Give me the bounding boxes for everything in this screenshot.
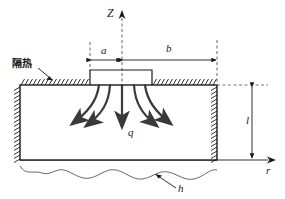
leader-line-h bbox=[155, 174, 176, 188]
dimension-a-label: a bbox=[101, 44, 107, 56]
heat-conduction-figure: Z r a b l q h 隔热 bbox=[0, 0, 285, 199]
leader-insulation-arrowhead bbox=[46, 76, 53, 80]
insulation-label: 隔热 bbox=[12, 55, 32, 70]
insulation-hatch-top-left bbox=[21, 79, 89, 85]
axis-r-label: r bbox=[266, 164, 270, 176]
convection-coefficient-label: h bbox=[178, 182, 184, 194]
dimension-extension-lines bbox=[90, 40, 217, 84]
axis-z-label: Z bbox=[107, 6, 114, 21]
convection-wavy-boundary bbox=[20, 166, 217, 179]
leader-line-insulation bbox=[38, 68, 53, 81]
slab-body bbox=[20, 85, 217, 160]
dimension-l bbox=[217, 85, 268, 158]
r-axis-arrowhead bbox=[267, 157, 276, 164]
diagram-canvas bbox=[0, 0, 285, 199]
dimension-b-label: b bbox=[166, 42, 172, 54]
heat-flux-label: q bbox=[128, 126, 134, 138]
heat-source-block bbox=[90, 70, 152, 85]
dimension-l-label: l bbox=[246, 114, 249, 126]
z-axis-arrowhead bbox=[119, 10, 126, 19]
insulation-hatch-top-right bbox=[153, 79, 217, 85]
insulation-hatch-left-wall bbox=[14, 87, 20, 163]
